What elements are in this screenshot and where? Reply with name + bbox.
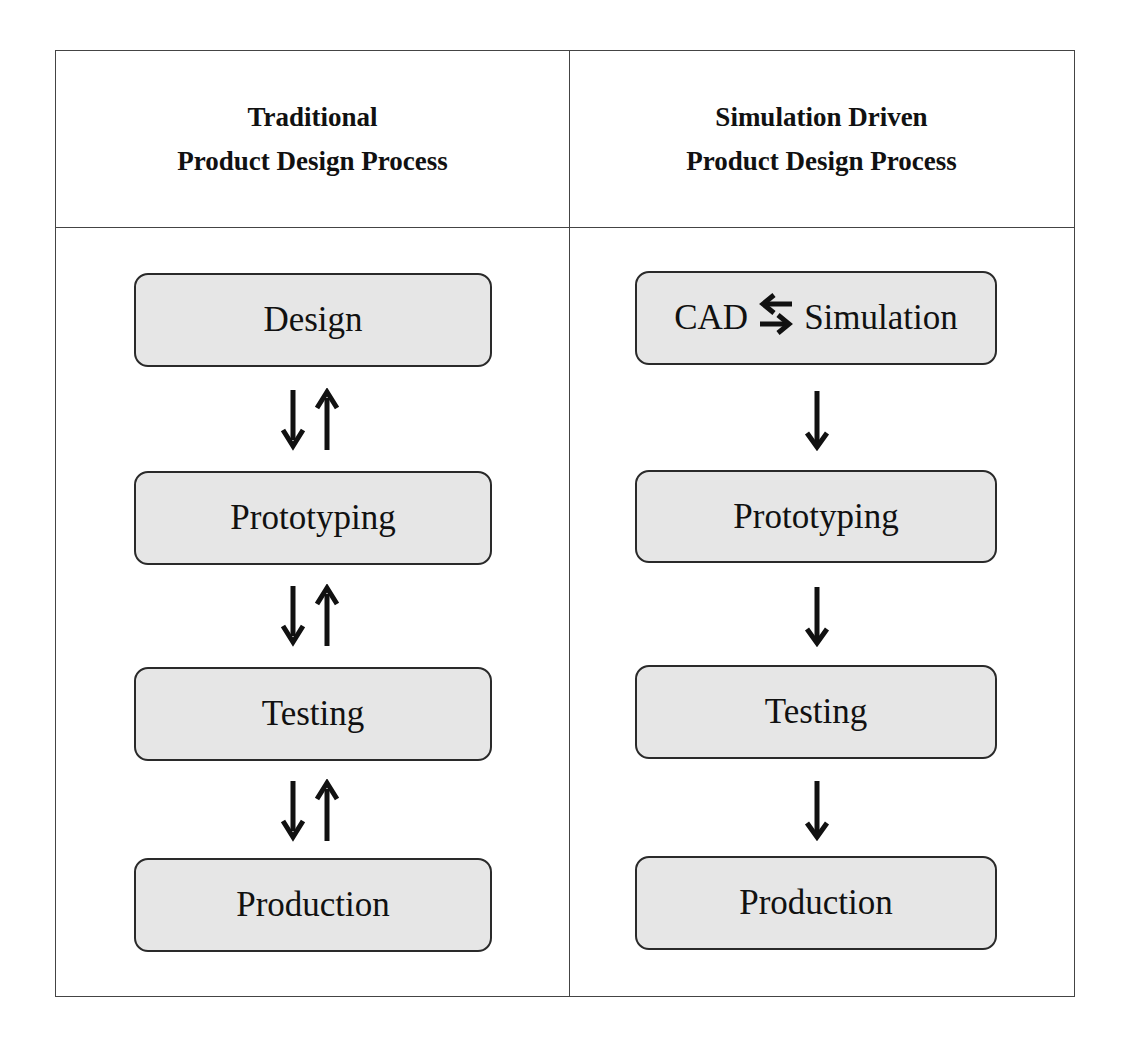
traditional-step-prototyping: Prototyping [134, 471, 492, 565]
simulation-step-testing: Testing [635, 665, 997, 759]
traditional-header: Traditional Product Design Process [56, 51, 569, 227]
bidirectional-arrow-icon [280, 388, 350, 452]
cad-label: CAD [674, 298, 748, 338]
traditional-step-design: Design [134, 273, 492, 367]
simulation-title-line1: Simulation Driven [715, 95, 927, 139]
step-label: Production [236, 885, 390, 925]
step-label: Prototyping [733, 497, 898, 537]
down-arrow-icon [804, 389, 830, 451]
step-label: Prototyping [230, 498, 395, 538]
step-label: Testing [765, 692, 868, 732]
down-arrow-icon [804, 779, 830, 841]
simulation-step-production: Production [635, 856, 997, 950]
traditional-step-production: Production [134, 858, 492, 952]
bidirectional-arrow-icon [280, 779, 350, 843]
header-divider [56, 227, 1074, 228]
swap-arrows-icon [758, 292, 794, 345]
traditional-title-line1: Traditional [247, 95, 377, 139]
down-arrow-icon [804, 585, 830, 647]
simulation-header: Simulation Driven Product Design Process [569, 51, 1074, 227]
simulation-label: Simulation [804, 298, 958, 338]
simulation-step-cad-simulation: CAD Simulation [635, 271, 997, 365]
bidirectional-arrow-icon [280, 584, 350, 648]
traditional-title-line2: Product Design Process [177, 139, 447, 183]
simulation-step-prototyping: Prototyping [635, 470, 997, 563]
step-label: Design [263, 300, 362, 340]
step-label: Testing [262, 694, 365, 734]
simulation-title-line2: Product Design Process [686, 139, 956, 183]
traditional-step-testing: Testing [134, 667, 492, 761]
step-label: Production [739, 883, 893, 923]
